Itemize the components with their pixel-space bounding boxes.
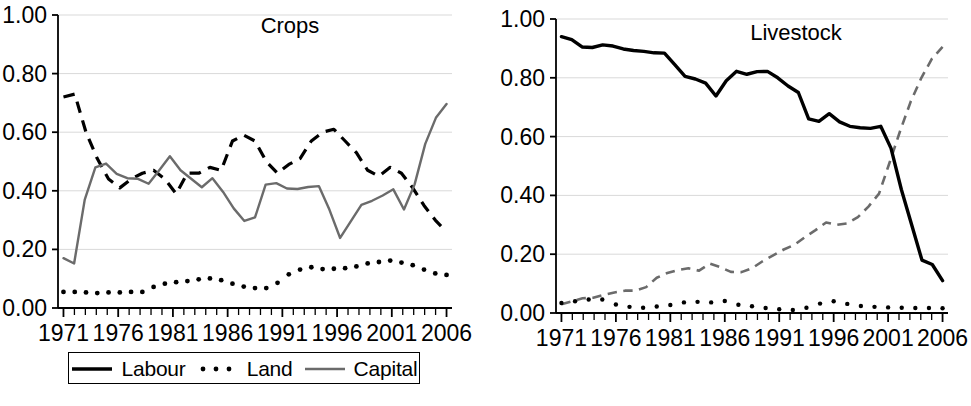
data-point-22 (309, 265, 314, 270)
data-point-20 (831, 299, 835, 303)
data-point-11 (709, 300, 713, 304)
data-point-1 (72, 289, 77, 294)
series-land-dots (61, 258, 449, 295)
x-tick-label-6: 2001 (863, 325, 914, 351)
data-point-25 (343, 266, 348, 271)
data-point-0 (559, 301, 563, 305)
y-tick-label-5: 1.00 (2, 2, 47, 28)
data-point-21 (298, 267, 303, 272)
livestock-plot-area: 0.000.200.400.600.801.001971197619811986… (490, 0, 971, 365)
data-point-9 (682, 300, 686, 304)
data-point-13 (736, 303, 740, 307)
x-tick-label-1: 1976 (590, 325, 641, 351)
x-tick-label-1: 1976 (93, 320, 144, 345)
y-tick-label-1: 0.20 (500, 241, 545, 267)
y-tick-label-4: 0.80 (500, 65, 545, 91)
data-point-31 (410, 263, 415, 268)
y-tick-label-5: 1.00 (500, 6, 545, 32)
y-tick-label-2: 0.40 (2, 178, 47, 204)
data-point-23 (320, 267, 325, 272)
data-point-32 (422, 267, 427, 272)
x-tick-label-7: 2006 (917, 325, 968, 351)
data-point-6 (641, 306, 645, 310)
legend-item-land[interactable]: Land (196, 358, 293, 379)
data-point-5 (627, 305, 631, 309)
data-point-17 (253, 286, 258, 291)
data-point-28 (377, 260, 382, 265)
data-point-30 (399, 260, 404, 265)
data-point-12 (723, 299, 727, 303)
data-point-18 (264, 286, 269, 291)
data-point-24 (331, 266, 336, 271)
series-labour-line (63, 94, 446, 232)
y-tick-label-4: 0.80 (2, 61, 47, 87)
x-tick-label-2: 1981 (147, 320, 198, 345)
x-tick-label-3: 1986 (202, 320, 253, 345)
data-point-0 (61, 289, 66, 294)
chart-title: Crops (261, 13, 320, 38)
data-point-10 (695, 300, 699, 304)
data-point-27 (365, 261, 370, 266)
x-tick-label-4: 1991 (754, 325, 805, 351)
data-point-26 (913, 306, 917, 310)
data-point-4 (106, 290, 111, 295)
data-point-17 (791, 308, 795, 312)
data-point-3 (600, 297, 604, 301)
y-tick-label-0: 0.00 (2, 295, 47, 321)
legend-label-capital: Capital (354, 358, 418, 379)
data-point-24 (886, 305, 890, 309)
x-tick-label-2: 1981 (645, 325, 696, 351)
data-point-12 (196, 277, 201, 282)
data-point-14 (750, 304, 754, 308)
data-point-15 (763, 306, 767, 310)
x-tick-label-5: 1996 (808, 325, 859, 351)
data-point-23 (872, 305, 876, 309)
series-capital-line (561, 37, 942, 281)
data-point-7 (655, 304, 659, 308)
data-point-15 (230, 281, 235, 286)
y-tick-label-3: 0.60 (2, 119, 47, 145)
data-point-26 (354, 264, 359, 269)
legend-crops: LabourLandCapital (68, 352, 420, 384)
data-point-8 (668, 303, 672, 307)
data-point-19 (275, 280, 280, 285)
legend-item-labour[interactable]: Labour (70, 358, 185, 379)
dashed-line-swatch-icon (70, 361, 114, 375)
data-point-14 (219, 278, 224, 283)
data-point-16 (241, 284, 246, 289)
x-tick-label-0: 1971 (536, 325, 587, 351)
y-tick-label-1: 0.20 (2, 236, 47, 262)
crops-plot-area: 0.000.200.400.600.801.001971197619811986… (0, 0, 480, 345)
series-labour-line (561, 47, 942, 304)
data-point-11 (185, 279, 190, 284)
legend-swatch-capital-icon (303, 361, 347, 375)
y-tick-label-0: 0.00 (500, 300, 545, 326)
dotted-line-swatch-icon (196, 361, 240, 375)
chart-panel-crops: 0.000.200.400.600.801.001971197619811986… (0, 0, 480, 406)
legend-dot-2 (226, 367, 231, 372)
legend-swatch-land-icon (196, 361, 240, 375)
data-point-22 (859, 304, 863, 308)
data-point-10 (174, 280, 179, 285)
x-tick-label-3: 1986 (699, 325, 750, 351)
data-point-19 (818, 301, 822, 305)
data-point-25 (900, 306, 904, 310)
data-point-6 (129, 289, 134, 294)
x-tick-label-5: 1996 (311, 320, 362, 345)
series-land-dots (559, 297, 945, 312)
legend-label-land: Land (247, 358, 293, 379)
legend-item-capital[interactable]: Capital (303, 358, 418, 379)
data-point-1 (573, 299, 577, 303)
legend-dot-1 (213, 367, 218, 372)
data-point-3 (95, 291, 100, 296)
chart-title: Livestock (750, 20, 843, 45)
chart-panel-livestock: 0.000.200.400.600.801.001971197619811986… (490, 0, 971, 406)
y-tick-label-3: 0.60 (500, 124, 545, 150)
series-capital-line (63, 104, 446, 263)
data-point-18 (804, 306, 808, 310)
data-point-4 (614, 302, 618, 306)
legend-dot-0 (200, 367, 205, 372)
data-point-21 (845, 302, 849, 306)
y-tick-label-2: 0.40 (500, 182, 545, 208)
data-point-34 (444, 272, 449, 277)
